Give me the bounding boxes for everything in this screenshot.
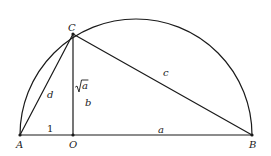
semicircle-arc — [20, 19, 252, 135]
segment-ac — [20, 34, 73, 135]
label-point-c: C — [68, 22, 76, 33]
semicircle-diagram: A O B C 1 a d c a b — [0, 0, 271, 156]
label-segment-ac: d — [47, 89, 53, 100]
label-segment-co-value: a — [76, 80, 89, 92]
label-segment-ao: 1 — [47, 123, 53, 134]
label-point-a: A — [15, 139, 23, 150]
point-a-dot — [18, 133, 21, 136]
sqrt-argument: a — [82, 80, 88, 91]
label-segment-co-name: b — [85, 97, 91, 108]
point-b-dot — [250, 133, 253, 136]
point-o-dot — [71, 133, 74, 136]
segment-cb — [73, 34, 252, 135]
label-point-o: O — [69, 139, 77, 150]
label-segment-cb: c — [163, 67, 169, 78]
label-point-b: B — [248, 139, 256, 150]
label-segment-ob: a — [158, 124, 164, 135]
